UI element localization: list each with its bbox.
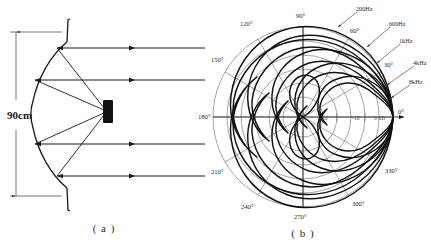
angle-label-0: 0° <box>398 108 404 115</box>
freq-label-4khz: 4kHz <box>413 59 427 66</box>
freq-label-1khz: 1kHz <box>399 37 413 44</box>
curve-200hz-lower <box>230 77 393 208</box>
angle-label-270: 270° <box>294 213 307 220</box>
panel-b-caption: ( b ) <box>291 227 314 240</box>
reflector-rim-bottom <box>67 188 70 211</box>
reflector-rim-top <box>67 19 70 42</box>
panel-b: 0° 30° 60° 90° 120° 150° 180° 210° 240° … <box>198 5 427 240</box>
radial-label-minus10: -10 <box>352 115 360 121</box>
figure-container: 90cm ( a ) <box>0 0 431 246</box>
angle-label-150: 150° <box>211 56 224 63</box>
incoming-sound-rays <box>35 46 205 179</box>
angle-label-180: 180° <box>198 113 211 120</box>
freq-label-8khz: 8kHz <box>409 78 423 85</box>
polar-radial-labels: -20 -10 0 dB <box>320 115 385 121</box>
angle-label-30: 30° <box>384 61 394 68</box>
freq-label-200hz: 200Hz <box>356 5 373 12</box>
microphone-at-focus <box>103 100 113 123</box>
angle-label-330: 330° <box>385 167 398 174</box>
panel-a: 90cm ( a ) <box>7 19 205 235</box>
angle-label-90: 90° <box>296 12 306 19</box>
angle-label-60: 60° <box>350 27 360 34</box>
figure-svg: 90cm ( a ) <box>0 0 431 246</box>
panel-a-caption: ( a ) <box>93 222 116 235</box>
angle-label-300: 300° <box>352 200 365 207</box>
parabolic-reflector <box>31 42 67 188</box>
dimension-label-90cm: 90cm <box>7 109 32 121</box>
curve-200hz <box>230 26 393 157</box>
radial-label-minus20: -20 <box>320 115 328 121</box>
angle-label-210: 210° <box>211 168 224 175</box>
freq-label-600hz: 600Hz <box>389 20 406 27</box>
angle-label-120: 120° <box>240 20 253 27</box>
angle-label-240: 240° <box>241 203 254 210</box>
radial-label-0db: 0 dB <box>374 115 385 121</box>
